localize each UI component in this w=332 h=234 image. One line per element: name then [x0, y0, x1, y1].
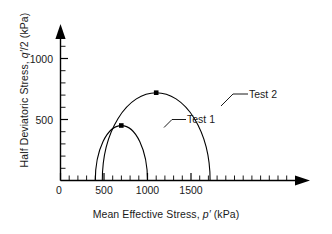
x-axis-major-ticks — [61, 173, 192, 181]
test-1-mohr-circle — [95, 126, 147, 181]
x-tick-label-1500: 1500 — [179, 184, 203, 196]
test-1-annotation-label: Test 1 — [187, 113, 215, 125]
y-axis-major-ticks — [61, 59, 69, 120]
y-axis-arrow-icon — [55, 24, 65, 39]
y-axis-title-suffix: /2 (kPa) — [18, 13, 30, 51]
test-1-leader-line — [164, 120, 186, 128]
test-1-peak-marker — [119, 123, 124, 128]
x-tick-label-500: 500 — [95, 184, 113, 196]
axis-lines — [61, 34, 301, 181]
x-axis-title: Mean Effective Stress, p′ (kPa) — [0, 208, 332, 220]
x-tick-label-1000: 1000 — [136, 184, 160, 196]
y-axis-minor-ticks — [61, 46, 66, 168]
y-axis-title-symbol: q — [18, 52, 30, 58]
y-tick-label-500: 500 — [35, 114, 53, 126]
x-tick-label-0: 0 — [56, 184, 62, 196]
x-axis-title-prefix: Mean Effective Stress, — [93, 208, 203, 220]
test-2-leader-line — [221, 94, 248, 106]
test-2-peak-marker — [154, 90, 159, 95]
y-axis-title-prefix: Half Deviatoric Stress, — [18, 58, 30, 167]
chart-figure: 0 500 1000 1500 500 1000 Test 1 Test 2 H… — [0, 0, 332, 234]
test-2-mohr-circle — [102, 93, 210, 181]
x-axis-title-suffix: (kPa) — [211, 208, 240, 220]
x-axis-arrow-icon — [295, 175, 310, 185]
y-axis-title: Half Deviatoric Stress, q′/2 (kPa) — [18, 0, 30, 180]
test-2-annotation-label: Test 2 — [249, 88, 277, 100]
mohr-circle-plot: 0 500 1000 1500 500 1000 Test 1 Test 2 — [0, 0, 332, 234]
y-tick-label-1000: 1000 — [30, 53, 54, 65]
y-axis-title-prime: ′ — [18, 50, 30, 52]
